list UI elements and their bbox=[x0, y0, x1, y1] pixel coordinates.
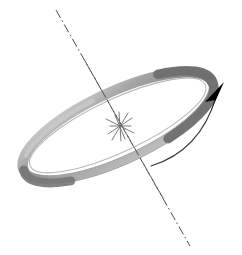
center-star-mark bbox=[106, 112, 134, 141]
star-ray bbox=[115, 115, 125, 139]
ring-rotation-diagram bbox=[0, 0, 242, 255]
figure-canvas bbox=[0, 0, 242, 255]
